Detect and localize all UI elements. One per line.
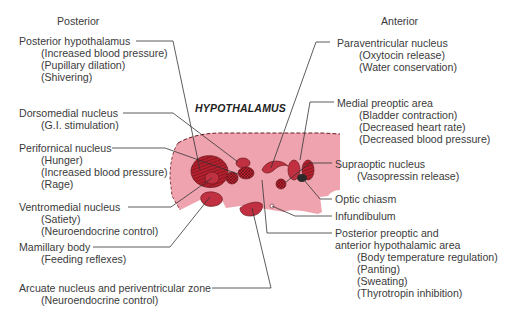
function-text: (Vasopressin release)	[335, 170, 459, 182]
function-text: (Oxytocin release)	[337, 49, 457, 61]
structure-name: Infundibulum	[335, 210, 396, 222]
structure-name-line2: anterior hypothalamic area	[335, 239, 498, 251]
function-text: (Neuroendocrine control)	[19, 225, 158, 237]
label-posterior-hypothalamus: Posterior hypothalamus (Increased blood …	[19, 35, 168, 83]
label-perifornical-nucleus: Perifornical nucleus (Hunger) (Increased…	[19, 142, 168, 190]
structure-name: Posterior hypothalamus	[19, 35, 168, 47]
label-ventromedial-nucleus: Ventromedial nucleus (Satiety) (Neuroend…	[19, 201, 158, 237]
function-text: (G.I. stimulation)	[19, 119, 119, 131]
function-text: (Satiety)	[19, 213, 158, 225]
label-posterior-preoptic-anterior-hypothalamic-area: Posterior preoptic and anterior hypothal…	[335, 227, 498, 299]
function-text: (Shivering)	[19, 71, 168, 83]
function-text: (Decreased blood pressure)	[337, 133, 490, 145]
label-mamillary-body: Mamillary body (Feeding reflexes)	[19, 241, 126, 265]
posterior-orientation-label: Posterior	[57, 15, 99, 27]
function-text: (Neuroendocrine control)	[19, 294, 211, 306]
label-supraoptic-nucleus: Supraoptic nucleus (Vasopressin release)	[335, 158, 459, 182]
function-text: (Feeding reflexes)	[19, 253, 126, 265]
function-text: (Thyrotropin inhibition)	[335, 287, 498, 299]
perifornical-nucleus-shape-2	[226, 172, 238, 184]
perifornical-nucleus-shape	[238, 167, 254, 179]
structure-name: Paraventricular nucleus	[337, 37, 457, 49]
function-text: (Rage)	[19, 178, 168, 190]
structure-name: Dorsomedial nucleus	[19, 107, 119, 119]
structure-name: Perifornical nucleus	[19, 142, 168, 154]
leader-arcuate	[212, 208, 271, 288]
supraoptic-nucleus-shape	[276, 179, 286, 189]
function-text: (Bladder contraction)	[337, 109, 490, 121]
hypothalamus-diagram: Posterior Anterior HYPOTHALAMUS Posterio…	[0, 0, 514, 316]
function-text: (Hunger)	[19, 154, 168, 166]
label-infundibulum: Infundibulum	[335, 210, 396, 222]
function-text: (Body temperature regulation)	[335, 251, 498, 263]
anterior-orientation-label: Anterior	[381, 15, 418, 27]
function-text: (Water conservation)	[337, 61, 457, 73]
function-text: (Increased blood pressure)	[19, 47, 168, 59]
function-text: (Sweating)	[335, 275, 498, 287]
label-paraventricular-nucleus: Paraventricular nucleus (Oxytocin releas…	[337, 37, 457, 73]
structure-name: Mamillary body	[19, 241, 126, 253]
function-text: (Decreased heart rate)	[337, 121, 490, 133]
function-text: (Pupillary dilation)	[19, 59, 168, 71]
label-arcuate-nucleus: Arcuate nucleus and periventricular zone…	[19, 282, 211, 306]
structure-name: Medial preoptic area	[337, 97, 490, 109]
structure-name: Supraoptic nucleus	[335, 158, 459, 170]
structure-name: Optic chiasm	[335, 193, 396, 205]
structure-name: Arcuate nucleus and periventricular zone	[19, 282, 211, 294]
structure-name: Posterior preoptic and	[335, 227, 498, 239]
function-text: (Increased blood pressure)	[19, 166, 168, 178]
label-optic-chiasm: Optic chiasm	[335, 193, 396, 205]
label-dorsomedial-nucleus: Dorsomedial nucleus (G.I. stimulation)	[19, 107, 119, 131]
diagram-title: HYPOTHALAMUS	[195, 102, 286, 114]
dorsomedial-nucleus-shape	[236, 158, 250, 168]
structure-name: Ventromedial nucleus	[19, 201, 158, 213]
function-text: (Panting)	[335, 263, 498, 275]
label-medial-preoptic-area: Medial preoptic area (Bladder contractio…	[337, 97, 490, 145]
optic-chiasm-shape	[297, 174, 307, 182]
